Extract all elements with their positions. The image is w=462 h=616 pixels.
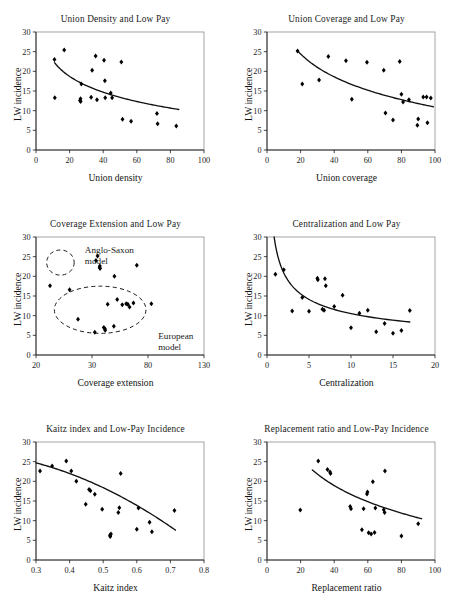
y-tick-label: 5 <box>257 331 261 340</box>
y-tick-label: 25 <box>253 253 261 262</box>
data-point <box>273 272 277 277</box>
x-tick-label: 15 <box>389 361 397 370</box>
data-point <box>93 330 97 335</box>
x-tick-label: 0 <box>34 156 38 165</box>
data-point <box>349 325 353 330</box>
data-point <box>94 53 98 58</box>
x-tick-label: 60 <box>133 156 141 165</box>
data-point <box>429 96 433 101</box>
data-point <box>316 458 320 463</box>
data-point <box>341 293 345 298</box>
x-tick-label: 0.7 <box>165 566 175 575</box>
data-point <box>135 527 139 532</box>
data-point <box>332 304 336 309</box>
data-point <box>373 530 377 535</box>
y-tick-label: 20 <box>253 272 261 281</box>
fit-curve <box>274 237 410 322</box>
data-point <box>150 529 154 534</box>
x-tick-label: 100 <box>198 156 210 165</box>
data-point <box>93 492 97 497</box>
data-point <box>103 78 107 83</box>
y-tick-label: 30 <box>253 233 261 242</box>
y-tick-label: 15 <box>22 497 30 506</box>
data-point <box>135 263 139 268</box>
x-tick-label: 0.3 <box>31 566 41 575</box>
x-axis-title: Centralization <box>231 377 462 388</box>
x-tick-label: 30 <box>88 361 96 370</box>
panel-coverage-extension: Coverage Extension and Low Pay0510152025… <box>0 205 231 410</box>
data-point <box>117 505 121 510</box>
data-point <box>112 324 116 329</box>
data-point <box>129 119 133 124</box>
y-tick-label: 30 <box>253 28 261 37</box>
x-tick-label: 20 <box>297 566 305 575</box>
data-point <box>103 95 107 100</box>
y-axis-title: LW incidence <box>243 273 254 326</box>
y-axis-title: LW incidence <box>12 68 23 121</box>
data-point <box>172 508 176 513</box>
y-tick-label: 20 <box>253 67 261 76</box>
y-tick-label: 20 <box>22 272 30 281</box>
data-point <box>307 309 311 314</box>
x-tick-label: 0 <box>265 566 269 575</box>
data-point <box>155 111 159 116</box>
data-point <box>326 54 330 59</box>
data-point <box>399 534 403 539</box>
x-tick-label: 80 <box>397 156 405 165</box>
data-point <box>119 471 123 476</box>
data-point <box>391 331 395 336</box>
data-point <box>425 94 429 99</box>
fit-curve <box>54 63 178 110</box>
fit-curve <box>36 463 175 530</box>
data-point <box>362 506 366 511</box>
x-tick-label: 40 <box>330 566 338 575</box>
x-tick-label: 40 <box>99 156 107 165</box>
y-tick-label: 30 <box>22 233 30 242</box>
x-tick-label: 0.8 <box>199 566 209 575</box>
panel-centralization: Centralization and Low Pay05101520253005… <box>231 205 462 410</box>
data-point <box>148 520 152 525</box>
data-point <box>89 95 93 100</box>
x-tick-label: 100 <box>429 156 441 165</box>
x-tick-label: 20 <box>32 361 40 370</box>
data-point <box>95 97 99 102</box>
cluster-annotation: Anglo-Saxonmodel <box>85 245 134 266</box>
data-point <box>298 508 302 513</box>
panel-kaitz-index: Kaitz index and Low-Pay Incidence0510152… <box>0 410 231 616</box>
y-tick-label: 5 <box>257 126 261 135</box>
y-tick-label: 30 <box>22 438 30 447</box>
y-axis-title: LW incidence <box>243 478 254 531</box>
y-tick-label: 0 <box>26 556 30 565</box>
y-tick-label: 25 <box>22 458 30 467</box>
data-point <box>121 117 125 122</box>
y-tick-label: 10 <box>22 517 30 526</box>
data-point <box>120 302 124 307</box>
data-point <box>69 469 73 474</box>
x-tick-label: 60 <box>364 156 372 165</box>
x-axis-title: Coverage extension <box>0 377 231 388</box>
y-tick-label: 0 <box>257 556 261 565</box>
data-point <box>100 507 104 512</box>
x-tick-label: 10 <box>347 361 355 370</box>
y-tick-label: 25 <box>253 48 261 57</box>
x-tick-label: 20 <box>431 361 439 370</box>
fit-curve <box>298 51 434 107</box>
y-tick-label: 0 <box>26 146 30 155</box>
y-tick-label: 15 <box>22 292 30 301</box>
y-tick-label: 25 <box>22 48 30 57</box>
x-tick-label: 60 <box>364 566 372 575</box>
panel-union-coverage: Union Coverage and Low Pay05101520253002… <box>231 0 462 205</box>
x-tick-label: 5 <box>307 361 311 370</box>
x-tick-label: 40 <box>330 156 338 165</box>
x-axis-title: Replacement ratio <box>231 582 462 593</box>
x-tick-label: 80 <box>166 156 174 165</box>
y-tick-label: 15 <box>253 292 261 301</box>
data-point <box>399 92 403 97</box>
x-tick-label: 0 <box>265 156 269 165</box>
data-point <box>119 59 123 64</box>
y-tick-label: 5 <box>26 331 30 340</box>
data-point <box>290 308 294 313</box>
data-point <box>416 521 420 526</box>
data-point <box>425 120 429 125</box>
y-tick-label: 20 <box>253 477 261 486</box>
